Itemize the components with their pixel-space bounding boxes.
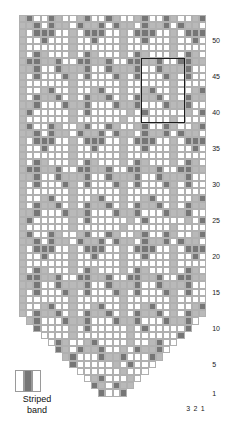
chart-cell [105,159,112,166]
chart-cell [134,310,141,317]
chart-cell [127,289,134,296]
chart-cell [26,296,33,303]
chart-cell [113,296,120,303]
chart-cell [185,245,192,252]
chart-cell [105,188,112,195]
chart-cell [91,361,98,368]
chart-cell [192,281,199,288]
chart-cell [170,130,177,137]
chart-cell [134,289,141,296]
chart-cell [91,353,98,360]
chart-cell [163,51,170,58]
chart-cell [48,281,55,288]
chart-cell [62,116,69,123]
chart-cell [192,260,199,267]
chart-cell [33,159,40,166]
chart-cell [69,281,76,288]
chart-cell [77,137,84,144]
chart-cell [98,253,105,260]
chart-cell [163,332,170,339]
chart-cell [62,303,69,310]
chart-cell [141,224,148,231]
chart-cell [98,303,105,310]
chart-cell [120,325,127,332]
chart-cell [19,15,26,22]
chart-cell [113,22,120,29]
chart-cell [33,51,40,58]
chart-cell [134,159,141,166]
chart-cell [55,238,62,245]
chart-cell [84,22,91,29]
chart-cell [199,231,206,238]
chart-cell [163,202,170,209]
chart-cell [170,296,177,303]
chart-cell [98,87,105,94]
chart-cell [177,325,184,332]
chart-cell [84,209,91,216]
chart-cell [170,123,177,130]
chart-cell [55,22,62,29]
chart-cell [163,339,170,346]
chart-cell [33,325,40,332]
chart-cell [33,281,40,288]
chart-cell [98,173,105,180]
chart-cell [113,245,120,252]
chart-cell [156,289,163,296]
chart-cell [77,296,84,303]
chart-cell [113,224,120,231]
chart-cell [33,310,40,317]
chart-cell [84,173,91,180]
chart-cell [19,202,26,209]
chart-cell [113,267,120,274]
chart-cell [55,274,62,281]
chart-cell [19,94,26,101]
chart-cell [192,317,199,324]
chart-cell [19,296,26,303]
chart-cell [41,94,48,101]
chart-cell [170,317,177,324]
chart-cell [48,80,55,87]
chart-cell [77,346,84,353]
chart-cell [163,44,170,51]
chart-cell [177,44,184,51]
chart-cell [26,87,33,94]
chart-cell [69,101,76,108]
chart-cell [55,296,62,303]
chart-cell [77,310,84,317]
chart-cell [69,209,76,216]
chart-cell [156,231,163,238]
chart-cell [163,195,170,202]
chart-cell [149,130,156,137]
chart-cell [105,202,112,209]
chart-cell [33,109,40,116]
chart-cell [69,267,76,274]
chart-cell [77,159,84,166]
chart-cell [170,274,177,281]
chart-cell [98,353,105,360]
chart-cell [127,65,134,72]
chart-cell [77,289,84,296]
chart-cell [84,44,91,51]
chart-cell [91,224,98,231]
chart-cell [120,80,127,87]
chart-cell [149,224,156,231]
chart-cell [134,339,141,346]
chart-cell [19,80,26,87]
chart-cell [134,217,141,224]
chart-cell [149,361,156,368]
chart-cell [113,80,120,87]
chart-cell [177,267,184,274]
chart-cell [149,202,156,209]
chart-cell [48,310,55,317]
chart-cell [113,339,120,346]
chart-cell [134,375,141,382]
chart-cell [55,260,62,267]
chart-cell [62,101,69,108]
chart-cell [77,231,84,238]
chart-cell [134,303,141,310]
chart-cell [105,224,112,231]
chart-cell [127,80,134,87]
chart-cell [127,303,134,310]
chart-cell [26,37,33,44]
chart-cell [55,94,62,101]
